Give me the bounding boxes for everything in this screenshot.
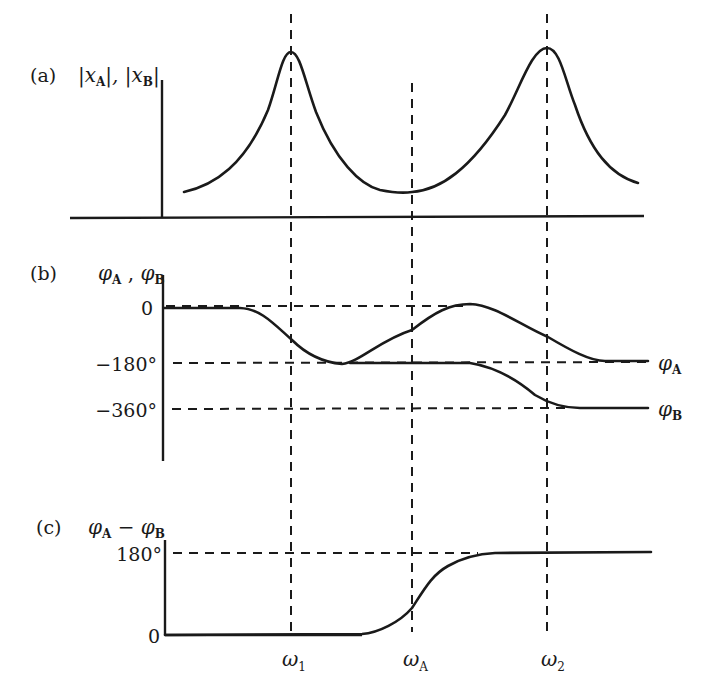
phi-a-curve: [164, 304, 648, 364]
minus360-ref-line: [172, 408, 565, 409]
panel-c: (c) φA − φB 180° 0: [36, 515, 651, 647]
phi-a-curve-label: φA: [658, 351, 682, 377]
panel-b-y-label: φA , φB: [98, 261, 165, 287]
panel-c-y-label: φA − φB: [88, 515, 165, 541]
panel-b: (b) φA , φB 0 −180° −360° φA φB: [30, 261, 682, 461]
tick-minus180: −180°: [95, 353, 157, 375]
panel-a-y-label: |xA|, |xB|: [78, 63, 160, 89]
phi-b-curve: [350, 363, 648, 408]
panel-a-x-axis: [70, 216, 644, 218]
omegaA-label: ωA: [403, 647, 428, 674]
tick-0-c: 0: [148, 625, 160, 647]
omega1-label: ω1: [282, 647, 306, 674]
omega2-label: ω2: [541, 647, 565, 674]
tick-0: 0: [141, 297, 153, 319]
tick-180: 180°: [116, 543, 162, 565]
panel-b-tag: (b): [30, 262, 57, 284]
panel-a: (a) |xA|, |xB|: [30, 48, 644, 218]
panel-c-tag: (c): [36, 516, 61, 538]
figure-canvas: (a) |xA|, |xB| (b) φA , φB 0 −180° −360°…: [0, 0, 701, 687]
phase-difference-curve: [165, 552, 651, 635]
tick-minus360: −360°: [95, 399, 157, 421]
panel-a-tag: (a): [30, 64, 56, 86]
phi-b-curve-label: φB: [658, 397, 682, 423]
